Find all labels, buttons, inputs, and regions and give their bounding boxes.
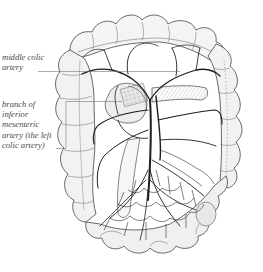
descending-colon [208,44,242,188]
ascending-colon [56,50,97,222]
label-left-colic-artery: branch of inferior mesenteric artery (th… [2,99,52,150]
anatomical-figure: middle colic artery branch of inferior m… [0,0,263,272]
label-middle-colic-artery: middle colic artery [2,52,44,72]
sigmoid-colon [86,176,228,253]
transverse-colon [70,15,225,62]
